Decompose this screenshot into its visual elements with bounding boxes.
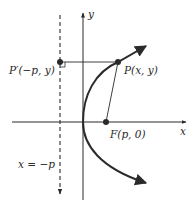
point-p <box>115 59 121 65</box>
point-focus <box>103 119 109 125</box>
segment-p-to-f <box>106 62 118 122</box>
parabola-curve-upper <box>83 46 146 122</box>
y-axis-label: y <box>87 8 95 20</box>
x-axis-label: x <box>180 125 186 137</box>
directrix-label: x = −p <box>18 158 55 170</box>
point-p-prime <box>57 59 63 65</box>
point-focus-label: F(p, 0) <box>109 128 146 140</box>
parabola-diagram: x y x = −p P(x, y) P′(−p, y) F(p, 0) <box>0 0 196 210</box>
point-p-label: P(x, y) <box>123 64 158 76</box>
point-p-prime-label: P′(−p, y) <box>8 64 55 76</box>
